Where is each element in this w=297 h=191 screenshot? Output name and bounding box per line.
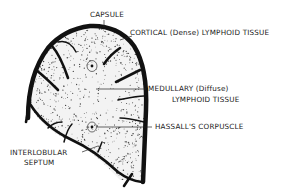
stipple-dot bbox=[49, 173, 50, 174]
stipple-dot bbox=[69, 119, 70, 120]
stipple-dot bbox=[105, 40, 106, 41]
stipple-dot bbox=[129, 144, 130, 145]
stipple-dot bbox=[87, 173, 88, 174]
stipple-dot bbox=[115, 41, 116, 42]
stipple-dot bbox=[39, 98, 40, 99]
stipple-dot bbox=[82, 81, 83, 82]
stipple-dot bbox=[29, 54, 30, 55]
stipple-dot bbox=[53, 73, 54, 74]
stipple-dot bbox=[106, 45, 107, 46]
stipple-dot bbox=[46, 29, 47, 30]
stipple-dot bbox=[30, 143, 31, 144]
stipple-dot bbox=[116, 63, 117, 64]
stipple-dot bbox=[25, 103, 26, 104]
stipple-dot bbox=[67, 167, 68, 168]
stipple-dot bbox=[99, 51, 100, 52]
stipple-dot bbox=[37, 171, 38, 172]
stipple-dot bbox=[32, 170, 33, 171]
stipple-dot bbox=[126, 142, 127, 143]
stipple-dot bbox=[63, 146, 64, 147]
stipple-dot bbox=[128, 29, 129, 30]
stipple-dot bbox=[94, 168, 95, 169]
stipple-dot bbox=[47, 86, 48, 87]
stipple-dot bbox=[68, 164, 69, 165]
stipple-dot bbox=[37, 140, 38, 141]
stipple-dot bbox=[27, 181, 28, 182]
stipple-dot bbox=[140, 50, 141, 51]
stipple-dot bbox=[53, 108, 54, 109]
stipple-dot bbox=[120, 160, 121, 161]
stipple-dot bbox=[57, 45, 58, 46]
stipple-dot bbox=[73, 116, 74, 117]
stipple-dot bbox=[52, 119, 53, 120]
stipple-dot bbox=[44, 46, 45, 47]
stipple-dot bbox=[108, 144, 109, 145]
stipple-dot bbox=[63, 54, 64, 55]
stipple-dot bbox=[88, 183, 89, 184]
stipple-dot bbox=[29, 182, 30, 183]
stipple-dot bbox=[105, 75, 106, 76]
stipple-dot bbox=[149, 110, 150, 111]
stipple-dot bbox=[48, 119, 49, 120]
stipple-dot bbox=[39, 76, 40, 77]
stipple-dot bbox=[139, 134, 140, 135]
stipple-dot bbox=[107, 41, 108, 42]
stipple-dot bbox=[46, 183, 47, 184]
stipple-dot bbox=[137, 73, 138, 74]
stipple-dot bbox=[110, 48, 111, 49]
stipple-dot bbox=[102, 45, 103, 46]
stipple-dot bbox=[123, 158, 124, 159]
stipple-dot bbox=[33, 183, 34, 184]
stipple-dot bbox=[134, 40, 135, 41]
stipple-dot bbox=[26, 94, 27, 95]
stipple-dot bbox=[144, 42, 145, 43]
stipple-dot bbox=[40, 99, 41, 100]
stipple-dot bbox=[92, 129, 93, 130]
stipple-dot bbox=[25, 144, 26, 145]
stipple-dot bbox=[75, 150, 76, 151]
stipple-dot bbox=[108, 156, 109, 157]
stipple-dot bbox=[121, 75, 122, 76]
stipple-dot bbox=[62, 168, 63, 169]
stipple-dot bbox=[75, 161, 76, 162]
stipple-dot bbox=[119, 161, 120, 162]
stipple-dot bbox=[66, 38, 67, 39]
stipple-dot bbox=[55, 133, 56, 134]
stipple-dot bbox=[138, 151, 139, 152]
stipple-dot bbox=[86, 44, 87, 45]
stipple-dot bbox=[96, 52, 97, 53]
stipple-dot bbox=[76, 84, 77, 85]
stipple-dot bbox=[138, 87, 139, 88]
stipple-dot bbox=[48, 176, 49, 177]
stipple-dot bbox=[108, 34, 109, 35]
stipple-dot bbox=[147, 161, 148, 162]
stipple-dot bbox=[70, 171, 71, 172]
stipple-dot bbox=[67, 97, 68, 98]
stipple-dot bbox=[135, 158, 136, 159]
stipple-dot bbox=[56, 144, 57, 145]
stipple-dot bbox=[95, 58, 96, 59]
stipple-dot bbox=[123, 109, 124, 110]
stipple-dot bbox=[65, 108, 66, 109]
stipple-dot bbox=[79, 106, 80, 107]
stipple-dot bbox=[36, 123, 37, 124]
stipple-dot bbox=[62, 125, 63, 126]
stipple-dot bbox=[133, 39, 134, 40]
stipple-dot bbox=[32, 40, 33, 41]
stipple-dot bbox=[36, 118, 37, 119]
stipple-dot bbox=[71, 99, 72, 100]
stipple-dot bbox=[34, 123, 35, 124]
stipple-dot bbox=[128, 33, 129, 34]
stipple-dot bbox=[103, 70, 104, 71]
stipple-dot bbox=[113, 39, 114, 40]
stipple-dot bbox=[133, 90, 134, 91]
stipple-dot bbox=[69, 177, 70, 178]
stipple-dot bbox=[78, 51, 79, 52]
stipple-dot bbox=[34, 119, 35, 120]
stipple-dot bbox=[84, 132, 85, 133]
stipple-dot bbox=[38, 43, 39, 44]
stipple-dot bbox=[36, 90, 37, 91]
stipple-dot bbox=[83, 34, 84, 35]
stipple-dot bbox=[44, 41, 45, 42]
stipple-dot bbox=[63, 86, 64, 87]
